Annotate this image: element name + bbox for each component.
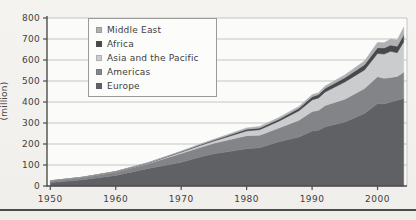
- y-tick-label: 200: [22, 139, 40, 149]
- y-tick-label: 700: [22, 34, 40, 44]
- legend-swatch-icon: [96, 69, 102, 75]
- legend-swatch-icon: [96, 83, 102, 89]
- legend-label: Middle East: [107, 25, 161, 35]
- x-tick-label: 2000: [365, 194, 390, 204]
- y-tick-label: 500: [22, 76, 40, 86]
- legend-swatch-icon: [96, 27, 102, 33]
- legend-swatch-icon: [96, 41, 102, 47]
- y-tick-label: 800: [22, 13, 40, 23]
- y-tick-label: 300: [22, 118, 40, 128]
- x-tick-label: 1970: [169, 194, 194, 204]
- legend-label: Americas: [107, 67, 150, 77]
- legend-item: Asia and the Pacific: [96, 51, 216, 65]
- y-tick-label: 100: [22, 160, 40, 170]
- y-tick-label: 600: [22, 55, 40, 65]
- y-tick-label: 400: [22, 97, 40, 107]
- x-tick-label: 1950: [38, 194, 63, 204]
- x-tick-label: 1960: [103, 194, 128, 204]
- legend-label: Africa: [107, 39, 134, 49]
- y-axis-unit-label: (million): [0, 71, 9, 131]
- legend-label: Europe: [107, 81, 140, 91]
- legend-swatch-icon: [96, 55, 102, 61]
- scanned-figure-page: 0100200300400500600700800195019601970198…: [0, 0, 416, 220]
- legend-item: Africa: [96, 37, 216, 51]
- legend-item: Europe: [96, 79, 216, 93]
- legend-item: Middle East: [96, 23, 216, 37]
- y-tick-label: 0: [34, 181, 40, 191]
- legend-item: Americas: [96, 65, 216, 79]
- legend-label: Asia and the Pacific: [107, 53, 199, 63]
- x-tick-label: 1980: [234, 194, 259, 204]
- chart-legend: Middle EastAfricaAsia and the PacificAme…: [88, 18, 217, 97]
- x-tick-label: 1990: [300, 194, 325, 204]
- page-divider-rule: [0, 209, 416, 211]
